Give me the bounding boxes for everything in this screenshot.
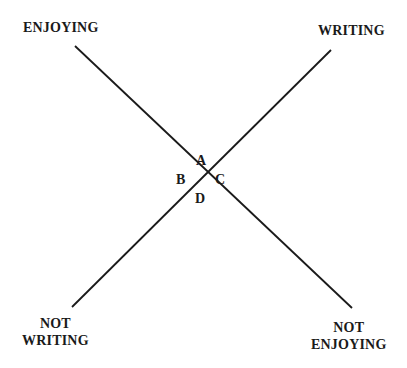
enjoying-axis-line	[75, 46, 352, 308]
writing-axis-line	[72, 50, 331, 307]
label-enjoying: ENJOYING	[23, 19, 99, 36]
label-not-writing: NOT WRITING	[22, 315, 89, 349]
quadrant-a: A	[196, 153, 206, 169]
label-not-writing-line1: NOT	[22, 315, 89, 332]
label-not-writing-line2: WRITING	[22, 332, 89, 349]
quadrant-d: D	[195, 191, 205, 207]
quadrant-c: C	[215, 172, 225, 188]
label-writing: WRITING	[318, 22, 385, 39]
label-not-enjoying: NOT ENJOYING	[311, 319, 387, 353]
label-not-enjoying-line2: ENJOYING	[311, 336, 387, 353]
label-not-enjoying-line1: NOT	[311, 319, 387, 336]
axes	[0, 0, 407, 368]
quadrant-b: B	[176, 172, 185, 188]
